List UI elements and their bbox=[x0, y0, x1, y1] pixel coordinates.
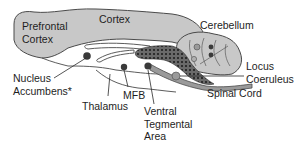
label-locus-line-2: Coeruleus bbox=[246, 73, 294, 86]
label-locus-coeruleus: Locus Coeruleus bbox=[246, 60, 294, 85]
cerebellum-nucleus-4 bbox=[209, 53, 214, 58]
fornix-outline bbox=[97, 50, 134, 62]
label-cerebellum: Cerebellum bbox=[200, 19, 254, 32]
label-vta-line-3: Area bbox=[144, 130, 192, 143]
label-ventral-tegmental-area: Ventral Tegmental Area bbox=[144, 105, 192, 143]
vta-dot bbox=[144, 62, 151, 69]
cerebellum-nucleus-1 bbox=[194, 44, 200, 50]
label-prefrontal-line-1: Prefrontal bbox=[22, 20, 68, 33]
label-nucleus-line-2: Accumbens* bbox=[13, 85, 72, 98]
locus-coeruleus-dot bbox=[172, 72, 180, 80]
leader-vta bbox=[148, 70, 154, 104]
label-nucleus-line-1: Nucleus bbox=[13, 72, 72, 85]
cerebellum-nucleus-3 bbox=[209, 45, 214, 50]
leader-mfb bbox=[124, 70, 128, 87]
label-spinal-cord: Spinal Cord bbox=[207, 87, 262, 100]
label-cortex: Cortex bbox=[99, 13, 130, 26]
cerebellum-nucleus-2 bbox=[191, 56, 196, 61]
label-vta-line-1: Ventral bbox=[144, 105, 192, 118]
label-prefrontal-cortex: Prefrontal Cortex bbox=[22, 20, 68, 45]
label-vta-line-2: Tegmental bbox=[144, 118, 192, 131]
label-locus-line-1: Locus bbox=[246, 60, 294, 73]
leader-thalamus bbox=[108, 74, 110, 96]
label-prefrontal-line-2: Cortex bbox=[22, 33, 68, 46]
thalamus-dot bbox=[121, 64, 127, 70]
label-mfb: MFB bbox=[123, 89, 145, 102]
label-nucleus-accumbens: Nucleus Accumbens* bbox=[13, 72, 72, 97]
label-thalamus: Thalamus bbox=[82, 100, 128, 113]
